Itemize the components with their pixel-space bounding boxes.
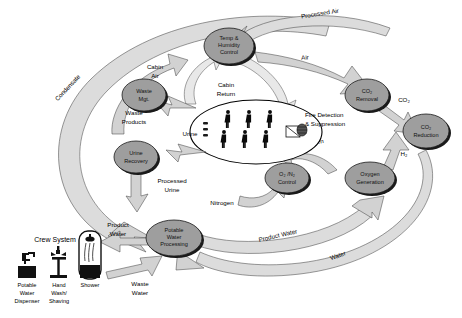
faucet-box-icon xyxy=(18,252,36,278)
crew-item-caption: Hand xyxy=(52,282,65,288)
node-label: Humidity xyxy=(218,42,240,48)
crew-item-caption: Water xyxy=(20,290,35,296)
crew-item-caption: Wash/ xyxy=(51,290,67,296)
node-label: Oxygen xyxy=(360,171,379,177)
flow-label-fire-detection-1: Fire Detection xyxy=(305,111,344,118)
fire-extinguisher-icon xyxy=(286,124,307,137)
node-label: Reduction xyxy=(413,132,438,138)
diagram-canvas: Condensate Processed Air Air CO₂ H₂ Oxyg… xyxy=(0,0,462,318)
flow-label-cabin-return-2: Return xyxy=(217,90,236,97)
node-label: Control xyxy=(220,49,238,55)
node-label: Temp & xyxy=(220,35,239,41)
crew-small-marks xyxy=(203,122,208,136)
flow-label-waste-products-2: Products xyxy=(122,118,146,125)
flow-label-processed-urine-1: Processed xyxy=(157,177,187,184)
crew-item-caption: Dispenser xyxy=(14,298,39,304)
flow-label-h2: H₂ xyxy=(401,150,408,157)
crew-item-caption: Shower xyxy=(81,282,100,288)
flow-label-cabin-return-1: Cabin xyxy=(218,81,235,88)
node-label: Recovery xyxy=(124,158,148,164)
flow-label-product-water-2: Water xyxy=(110,230,126,237)
crew-item-caption: Shaving xyxy=(49,298,69,304)
node-label: CO₂ xyxy=(362,88,373,94)
node-label: Control xyxy=(278,179,296,185)
crew-item-caption: Potable xyxy=(18,282,37,288)
flow-arrow-waste-water xyxy=(106,256,162,279)
eclss-diagram: Condensate Processed Air Air CO₂ H₂ Oxyg… xyxy=(0,0,462,318)
flow-arrow-processed-urine xyxy=(126,172,148,212)
flow-label-nitrogen: Nitrogen xyxy=(210,199,234,206)
flow-label-cabin-air-2: Air xyxy=(151,72,159,79)
flow-label-processed-urine-2: Urine xyxy=(165,186,180,193)
sink-faucet-icon xyxy=(50,246,67,278)
node-label: Urine xyxy=(129,150,142,156)
node-label: Mgt. xyxy=(139,96,150,102)
flow-label-air: Air xyxy=(301,53,309,60)
node-potable-water-processing[interactable]: Potable Water Processing xyxy=(146,220,204,258)
flow-label-product-water-1: Product xyxy=(107,221,129,228)
node-label: Generation xyxy=(356,179,384,185)
node-label: Water xyxy=(167,234,182,240)
crew-system-panel: Crew System Potable Water Dispenser Hand… xyxy=(14,231,101,304)
node-label: Processing xyxy=(160,241,188,247)
crew-system-title: Crew System xyxy=(34,236,76,244)
crew-compartment xyxy=(190,100,322,164)
shower-stall-icon xyxy=(79,231,101,279)
node-label: Potable xyxy=(165,227,184,233)
flow-label-waste-water-2: Water xyxy=(132,289,148,296)
node-urine-recovery[interactable]: Urine Recovery xyxy=(114,141,160,175)
flow-label-fire-detection-2: & Suppression xyxy=(305,120,346,127)
flow-label-urine: Urine xyxy=(183,130,198,137)
node-co2-removal[interactable]: CO₂ Removal xyxy=(345,79,391,113)
node-label: Removal xyxy=(356,96,378,102)
node-label: O₂ /N₂ xyxy=(279,171,295,177)
flow-label-cabin-air-1: Cabin xyxy=(147,63,164,70)
flow-label-waste-water-1: Waste xyxy=(131,280,149,287)
node-label: Waste xyxy=(136,88,152,94)
node-label: CO₂ xyxy=(421,124,432,130)
flow-label-co2: CO₂ xyxy=(398,96,410,103)
node-co2-reduction[interactable]: CO₂ Reduction xyxy=(403,114,451,150)
